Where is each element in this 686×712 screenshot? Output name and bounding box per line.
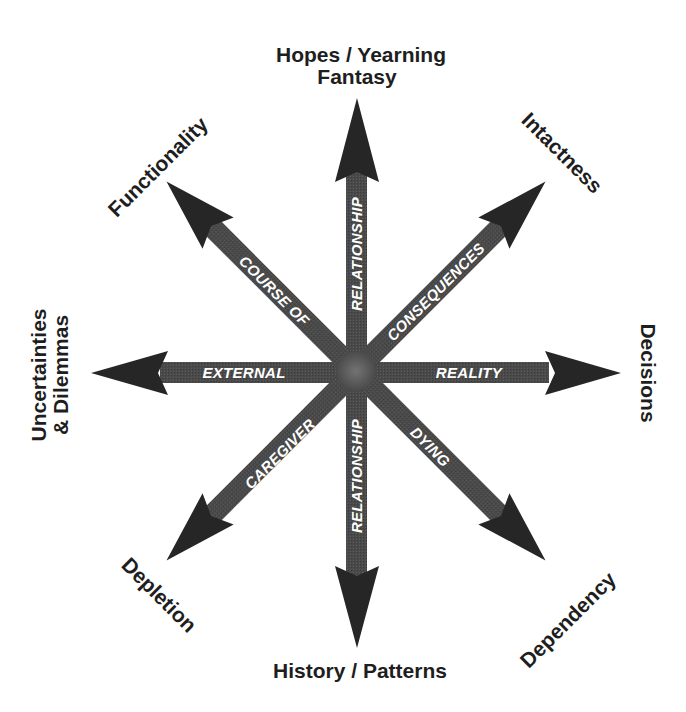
end-label-top: Hopes / Yearning Fantasy xyxy=(276,43,446,88)
shaft-label-up-right: CONSEQUENCES xyxy=(383,239,488,344)
shaft-label-left: EXTERNAL xyxy=(202,364,285,381)
arrowhead-up-icon xyxy=(335,98,379,182)
end-label-top-line1: Hopes / Yearning xyxy=(276,43,446,66)
end-label-bottom-left: Depletion xyxy=(117,553,201,637)
eight-arrow-diagram: RELATIONSHIP RELATIONSHIP EXTERNAL REALI… xyxy=(0,0,686,712)
shaft-label-right: REALITY xyxy=(436,364,504,381)
shaft-label-down-right: DYING xyxy=(407,423,454,470)
end-label-bottom: History / Patterns xyxy=(273,659,447,682)
shaft-label-up: RELATIONSHIP xyxy=(348,196,365,311)
center-hub xyxy=(336,351,376,391)
end-label-top-right: Intactness xyxy=(517,108,607,198)
end-label-bottom-right: Dependency xyxy=(515,567,620,672)
end-label-left: Uncertainties & Dilemmas xyxy=(27,308,72,441)
end-label-right: Decisions xyxy=(637,323,660,422)
end-label-top-line2: Fantasy xyxy=(317,65,397,88)
shaft-label-down: RELATIONSHIP xyxy=(348,418,365,533)
arrowhead-down-icon xyxy=(335,566,379,648)
arrowhead-left-icon xyxy=(91,351,168,395)
shaft-label-down-left: CAREGIVER xyxy=(241,415,318,492)
end-label-left-line1: Uncertainties xyxy=(27,308,50,441)
end-label-left-line2: & Dilemmas xyxy=(49,315,72,435)
arrowhead-right-icon xyxy=(545,351,621,395)
shaft-label-up-left: COURSE OF xyxy=(236,252,313,329)
